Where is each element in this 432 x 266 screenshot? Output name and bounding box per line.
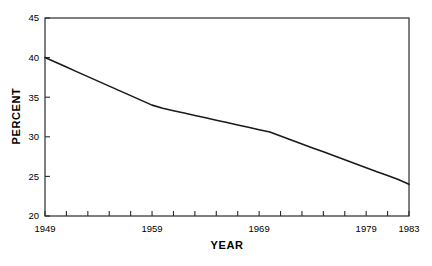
y-axis-ticks [45,18,50,216]
y-tick-label: 35 [28,92,39,103]
y-tick-label: 40 [28,52,39,63]
axes-border [45,18,409,216]
y-tick-label: 45 [28,12,39,23]
x-axis-title: YEAR [45,239,409,251]
x-tick-label: 1959 [141,223,162,234]
x-tick-label: 1979 [356,223,377,234]
chart-figure: 202530354045 19491959196919791983 PERCEN… [0,0,432,266]
y-axis-title-wrapper: PERCENT [6,0,26,266]
x-tick-label: 1983 [398,223,419,234]
x-tick-label: 1969 [249,223,270,234]
y-tick-label: 30 [28,131,39,142]
y-axis-tick-labels: 202530354045 [28,12,39,221]
y-tick-label: 25 [28,171,39,182]
data-series-line [45,58,409,185]
x-axis-tick-labels: 19491959196919791983 [34,223,419,234]
y-axis-title: PERCENT [10,70,22,162]
line-chart-plot: 202530354045 19491959196919791983 [0,0,432,266]
x-axis-ticks [45,211,409,216]
plot-frame [45,18,409,216]
x-tick-label: 1949 [34,223,55,234]
y-tick-label: 20 [28,210,39,221]
